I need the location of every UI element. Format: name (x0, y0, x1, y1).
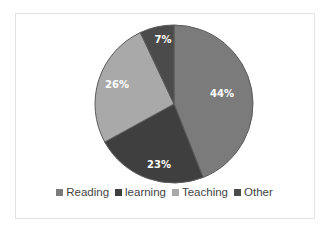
legend-swatch-learning (115, 189, 122, 196)
legend-label: Reading (66, 186, 109, 198)
legend-swatch-teaching (172, 189, 179, 196)
legend-item-teaching: Teaching (172, 186, 228, 198)
label-reading: 44% (210, 88, 234, 99)
legend-item-other: Other (234, 186, 273, 198)
legend-swatch-other (234, 189, 241, 196)
legend-item-reading: Reading (56, 186, 109, 198)
legend-swatch-reading (56, 189, 63, 196)
legend-label: Teaching (182, 186, 228, 198)
label-learning: 23% (147, 159, 171, 170)
legend-item-learning: learning (115, 186, 166, 198)
legend-label: Other (244, 186, 273, 198)
pie-slices (95, 25, 253, 183)
label-teaching: 26% (105, 79, 129, 90)
label-other: 7% (155, 34, 172, 45)
legend-label: learning (125, 186, 166, 198)
chart-legend: Reading learning Teaching Other (0, 186, 329, 198)
